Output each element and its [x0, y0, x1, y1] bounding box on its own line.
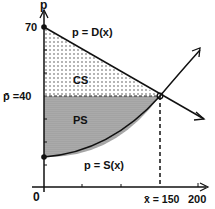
demand-label: p = D(x) — [72, 26, 113, 38]
p-axis-label: p — [40, 0, 47, 12]
surplus-diagram: p 70 p̄ =40 0 x̄ = 150 200 p = D(x) p = … — [0, 0, 215, 209]
x200-label: 200 — [188, 193, 206, 205]
supply-label: p = S(x) — [84, 159, 124, 171]
supply-intercept-point — [41, 154, 47, 160]
demand-intercept-point — [41, 24, 47, 30]
supply-arrow-icon — [192, 48, 200, 57]
pbar-label: p̄ =40 — [3, 90, 31, 102]
xbar-label: x̄ = 150 — [144, 193, 179, 205]
origin-label: 0 — [33, 190, 40, 204]
producer-surplus-region — [44, 96, 160, 157]
cs-label: CS — [73, 74, 88, 86]
p70-label: 70 — [25, 21, 37, 33]
ps-label: PS — [73, 114, 88, 126]
